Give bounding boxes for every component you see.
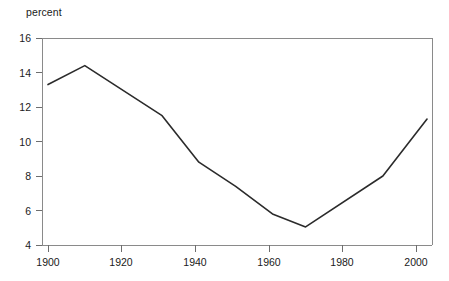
line-chart-plot: 16 14 12 10 8 6 4 1900 1920 1940 1960 19… [0, 0, 449, 281]
y-tick-label-10: 10 [19, 136, 31, 148]
chart-container: percent 16 14 12 10 8 6 4 1900 1920 1940 [0, 0, 449, 281]
x-tick-label-1980: 1980 [330, 256, 354, 268]
x-tick-label-1900: 1900 [36, 256, 60, 268]
y-tick-label-8: 8 [25, 170, 31, 182]
x-tick-label-1920: 1920 [109, 256, 133, 268]
y-tick-label-14: 14 [19, 67, 31, 79]
data-series-line [48, 66, 427, 227]
x-tick-label-1940: 1940 [183, 256, 207, 268]
x-tick-label-1960: 1960 [257, 256, 281, 268]
y-tick-label-6: 6 [25, 205, 31, 217]
y-tick-label-16: 16 [19, 32, 31, 44]
x-tick-label-2000: 2000 [404, 256, 428, 268]
y-tick-label-4: 4 [25, 239, 31, 251]
y-tick-label-12: 12 [19, 101, 31, 113]
